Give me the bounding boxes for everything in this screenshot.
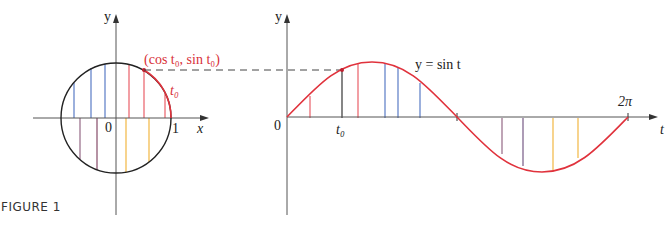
sine-plot: y t 0 t₀ 2π y = sin t <box>274 9 665 215</box>
circle-origin-label: 0 <box>105 120 112 135</box>
point-label: (cos t₀, sin t₀) <box>144 52 220 68</box>
circle-x-label: x <box>196 121 204 136</box>
curve-label: y = sin t <box>415 57 461 72</box>
sine-y-label: y <box>275 9 282 24</box>
sine-origin-label: 0 <box>274 118 281 133</box>
arc-label: t₀ <box>170 83 179 98</box>
sine-t-label: t <box>660 122 665 137</box>
y-axis-arrow-icon <box>113 14 119 23</box>
figure-caption: FIGURE 1 <box>1 200 61 214</box>
two-pi-label: 2π <box>618 94 633 109</box>
circle-y-label: y <box>104 9 111 24</box>
circle-one-label: 1 <box>172 121 179 136</box>
arc-t0 <box>144 70 171 118</box>
t-axis-arrow-icon <box>649 114 658 120</box>
sine-point-marker <box>340 68 344 72</box>
figure-canvas: y x 0 1 (cos t₀, sin t₀) t₀ <box>0 0 669 232</box>
circle-plot: y x 0 1 (cos t₀, sin t₀) t₀ <box>33 9 220 215</box>
sine-y-arrow-icon <box>284 14 290 23</box>
sine-t0-label: t₀ <box>336 122 345 137</box>
